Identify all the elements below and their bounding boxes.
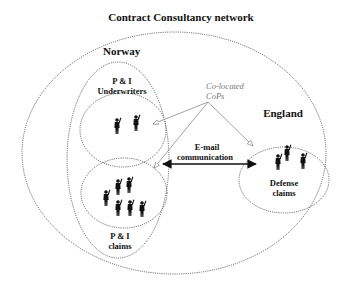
claims-label-line1: P & I xyxy=(110,231,130,241)
person-icon xyxy=(103,190,110,207)
claims-people xyxy=(103,177,146,218)
network-boundary xyxy=(22,32,326,274)
underwriters-group xyxy=(80,93,166,167)
person-icon xyxy=(300,153,307,170)
person-icon xyxy=(133,115,140,132)
person-icon xyxy=(139,201,146,218)
cop-pointer-defense xyxy=(208,102,253,146)
email-label-line1: E-mail xyxy=(195,142,220,152)
norway-label: Norway xyxy=(103,45,141,57)
diagram-title: Contract Consultancy network xyxy=(108,11,254,23)
person-icon xyxy=(126,177,133,194)
cops-label-line2: CoPs xyxy=(206,91,225,101)
cops-label-line1: Co-located xyxy=(206,81,245,91)
england-label: England xyxy=(263,107,303,119)
person-icon xyxy=(115,200,122,217)
person-icon xyxy=(275,154,282,171)
underwriters-label-line2: Underwriters xyxy=(97,86,147,96)
consultancy-network-diagram: Contract Consultancy network Norway Engl… xyxy=(0,0,359,287)
underwriters-people xyxy=(114,115,140,135)
defense-label-line2: claims xyxy=(272,188,296,198)
defense-label-line1: Defense xyxy=(270,178,299,188)
claims-label-line2: claims xyxy=(108,241,132,251)
underwriters-label-line1: P & I xyxy=(112,76,132,86)
person-icon xyxy=(284,145,291,162)
person-icon xyxy=(127,200,134,217)
claims-group xyxy=(81,158,167,228)
person-icon xyxy=(114,118,121,135)
defense-people xyxy=(275,145,307,171)
person-icon xyxy=(115,179,122,196)
email-label-line2: communication xyxy=(177,152,233,162)
